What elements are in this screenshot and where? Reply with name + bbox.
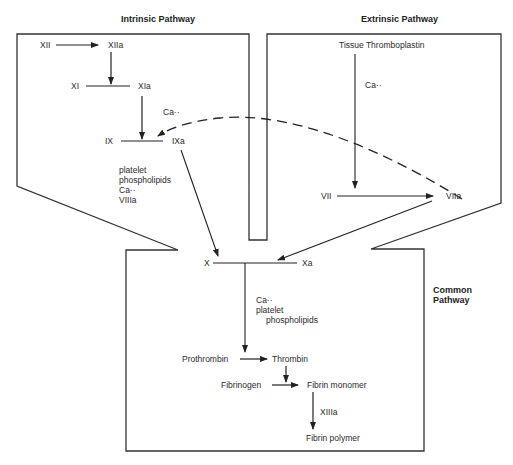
- factor-viia: VIIa: [446, 191, 461, 201]
- factor-xii: XII: [40, 40, 50, 50]
- factor-ixa: IXa: [172, 136, 185, 146]
- factor-xiiia: XIIIa: [320, 407, 337, 417]
- intrinsic-calcium: Ca··: [163, 107, 180, 117]
- factor-xa: Xa: [302, 258, 312, 268]
- factor-xi: XI: [71, 81, 79, 91]
- common-cofactor: platelet: [256, 305, 283, 315]
- common-cofactor: phospholipids: [266, 315, 318, 325]
- intrinsic-cofactor: phospholipids: [119, 175, 171, 185]
- common-cofactor: Ca··: [256, 295, 273, 305]
- intrinsic-cofactor: platelet: [119, 165, 146, 175]
- fibrin-monomer: Fibrin monomer: [307, 380, 367, 390]
- dashed-feedback-viia-ix: [158, 117, 462, 199]
- prothrombin: Prothrombin: [182, 354, 228, 364]
- intrinsic-pathway-title: Intrinsic Pathway: [121, 14, 195, 25]
- factor-ix: IX: [105, 136, 113, 146]
- extrinsic-calcium: Ca··: [365, 80, 382, 90]
- arrow-viia-x: [278, 201, 432, 260]
- pathway-diagram: [0, 0, 513, 465]
- factor-vii: VII: [321, 191, 331, 201]
- intrinsic-cofactor: VIIIa: [119, 195, 136, 205]
- tissue-thromboplastin: Tissue Thromboplastin: [339, 40, 425, 50]
- extrinsic-pathway-title: Extrinsic Pathway: [361, 14, 438, 25]
- factor-xia: XIa: [138, 81, 151, 91]
- intrinsic-cofactor: Ca··: [119, 185, 136, 195]
- fibrinogen: Fibrinogen: [221, 380, 261, 390]
- thrombin: Thrombin: [272, 354, 308, 364]
- factor-xiia: XIIa: [108, 40, 123, 50]
- arrow-ixa-x: [181, 150, 218, 256]
- factor-x: X: [204, 258, 210, 268]
- fibrin-polymer: Fibrin polymer: [306, 433, 360, 443]
- common-pathway-title-line2: Pathway: [433, 295, 470, 306]
